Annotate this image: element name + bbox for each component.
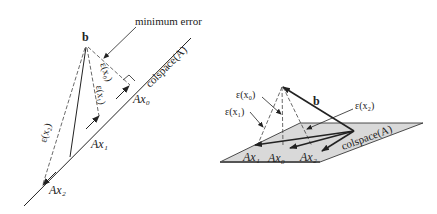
right-error-x1-label: ε(x₁) bbox=[225, 106, 244, 118]
arrow-ax0-marker bbox=[116, 86, 129, 99]
minimum-error-pointer bbox=[104, 27, 136, 58]
left-ax2-label: Ax₂ bbox=[48, 183, 66, 197]
right-b-label: b bbox=[313, 94, 320, 108]
right-error-x2-label: ε(x₂) bbox=[355, 100, 374, 112]
left-error-x1-label: ε(x₁) bbox=[93, 84, 108, 105]
error-x2-line bbox=[43, 48, 85, 184]
left-error-x2-label: ε(x₂) bbox=[37, 122, 54, 144]
diagram-canvas: b minimum error colspace(A) ε(x₀) ε(x₁) … bbox=[0, 0, 437, 214]
right-ax0-label: Ax₀ bbox=[267, 151, 285, 165]
left-ax1-label: Ax₁ bbox=[90, 137, 108, 151]
arrow-ax1-marker bbox=[86, 116, 99, 129]
error-x1-line bbox=[87, 48, 99, 116]
right-panel: b ε(x₀) ε(x₁) ε(x₂) Ax₁ Ax₀ Ax₂ colspace… bbox=[220, 87, 423, 165]
right-error-x0-label: ε(x₀) bbox=[236, 89, 255, 101]
pointer-x1 bbox=[250, 112, 263, 127]
minimum-error-label: minimum error bbox=[135, 15, 202, 27]
left-b-label: b bbox=[82, 30, 89, 44]
left-colspace-label: colspace(A) bbox=[143, 43, 190, 90]
left-error-x0-label: ε(x₀) bbox=[97, 61, 115, 83]
right-ax1-label: Ax₁ bbox=[242, 150, 260, 164]
right-ax2-label: Ax₂ bbox=[299, 150, 317, 164]
left-panel: b minimum error colspace(A) ε(x₀) ε(x₁) … bbox=[24, 15, 202, 206]
b-vector bbox=[70, 47, 86, 157]
left-ax0-label: Ax₀ bbox=[132, 92, 150, 106]
